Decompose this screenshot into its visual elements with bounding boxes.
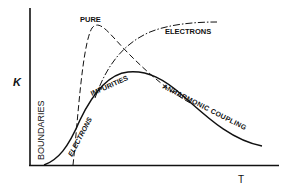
thermal-conductivity-diagram: K T PURE ELECTRONS BOUNDARIES ELECTRONS … [0,0,290,189]
electrons-high-label: ELECTRONS [165,27,211,36]
y-axis-label: K [13,76,22,88]
pure-label: PURE [80,15,101,24]
x-axis-label: T [238,174,244,185]
impurities-label: IMPURITIES [90,74,130,97]
anharmonic-coupling-label: ANHARMONIC COUPLING [162,83,248,132]
electrons-low-label: ELECTRONS [67,116,94,158]
boundaries-label: BOUNDARIES [36,100,46,160]
